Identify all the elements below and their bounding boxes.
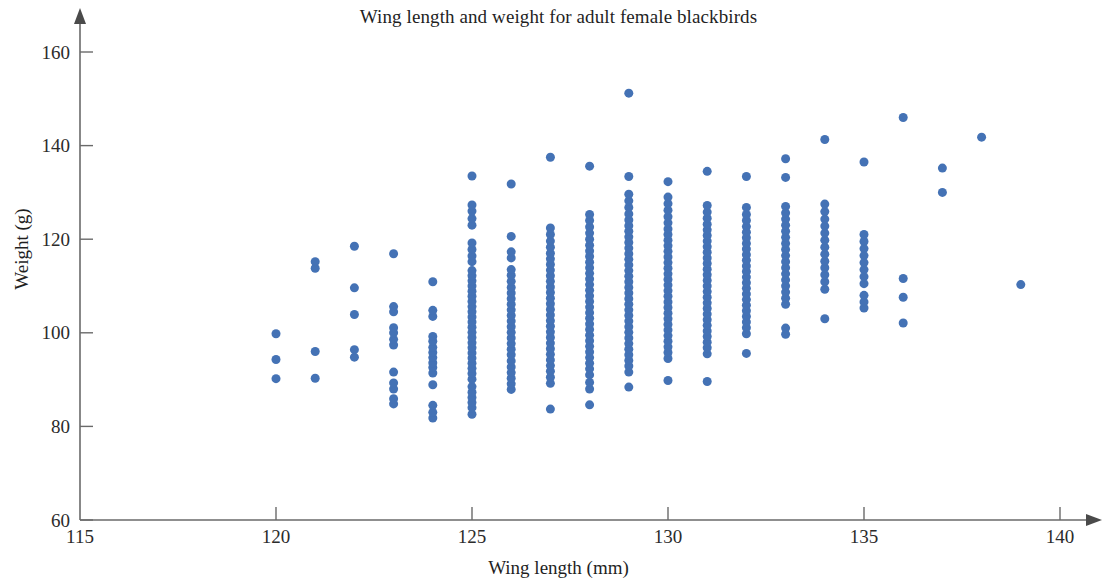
data-point	[272, 355, 281, 364]
data-point	[546, 223, 555, 232]
y-tick-label: 80	[51, 416, 70, 437]
data-point	[468, 172, 477, 181]
data-point	[624, 172, 633, 181]
y-tick-label: 160	[42, 42, 71, 63]
data-point	[389, 302, 398, 311]
data-point	[272, 329, 281, 338]
data-point	[350, 345, 359, 354]
data-points-layer	[272, 89, 1026, 423]
data-point	[428, 277, 437, 286]
data-point	[938, 188, 947, 197]
data-point	[624, 89, 633, 98]
data-point	[389, 394, 398, 403]
x-tick-label: 120	[262, 526, 291, 547]
data-point	[899, 113, 908, 122]
data-point	[389, 249, 398, 258]
y-axis-arrowhead	[74, 8, 86, 24]
data-point	[468, 266, 477, 275]
data-point	[350, 283, 359, 292]
data-point	[781, 202, 790, 211]
data-point	[428, 401, 437, 410]
data-point	[507, 247, 516, 256]
x-tick-label: 135	[850, 526, 879, 547]
data-point	[507, 232, 516, 241]
data-point	[585, 400, 594, 409]
data-point	[938, 164, 947, 173]
data-point	[1016, 280, 1025, 289]
data-point	[742, 203, 751, 212]
data-point	[781, 154, 790, 163]
data-point	[428, 306, 437, 315]
x-axis-arrowhead	[1086, 514, 1102, 526]
data-point	[899, 274, 908, 283]
data-point	[703, 201, 712, 210]
y-axis-title: Weight (g)	[11, 179, 33, 319]
data-point	[977, 133, 986, 142]
y-axis	[74, 8, 86, 520]
data-point	[624, 190, 633, 199]
data-point	[624, 383, 633, 392]
data-point	[311, 374, 320, 383]
data-point	[703, 167, 712, 176]
data-point	[389, 378, 398, 387]
data-point	[781, 324, 790, 333]
data-point	[664, 193, 673, 202]
data-point	[507, 179, 516, 188]
data-point	[272, 374, 281, 383]
data-point	[664, 177, 673, 186]
data-point	[585, 162, 594, 171]
y-tick-label: 100	[42, 322, 71, 343]
data-point	[468, 238, 477, 247]
data-point	[820, 200, 829, 209]
data-point	[428, 380, 437, 389]
x-axis-title: Wing length (mm)	[0, 557, 1117, 579]
x-tick-label: 115	[66, 526, 94, 547]
data-point	[507, 265, 516, 274]
x-tick-group: 115120125130135140	[66, 507, 1074, 547]
y-tick-label: 120	[42, 229, 71, 250]
data-point	[311, 257, 320, 266]
y-tick-group: 6080100120140160	[42, 42, 94, 531]
data-point	[781, 173, 790, 182]
data-point	[860, 230, 869, 239]
data-point	[428, 332, 437, 341]
data-point	[820, 135, 829, 144]
data-point	[742, 349, 751, 358]
data-point	[546, 153, 555, 162]
data-point	[350, 242, 359, 251]
x-axis	[80, 514, 1102, 526]
x-tick-label: 125	[458, 526, 487, 547]
data-point	[860, 157, 869, 166]
data-point	[899, 318, 908, 327]
data-point	[311, 347, 320, 356]
scatter-chart: Wing length and weight for adult female …	[0, 0, 1117, 582]
y-tick-label: 140	[42, 135, 71, 156]
data-point	[664, 376, 673, 385]
data-point	[546, 405, 555, 414]
data-point	[585, 210, 594, 219]
data-point	[389, 323, 398, 332]
plot-area: 6080100120140160 115120125130135140	[0, 0, 1117, 582]
data-point	[820, 314, 829, 323]
data-point	[389, 368, 398, 377]
data-point	[860, 291, 869, 300]
x-tick-label: 130	[654, 526, 683, 547]
data-point	[899, 293, 908, 302]
x-tick-label: 140	[1046, 526, 1075, 547]
data-point	[468, 201, 477, 210]
data-point	[350, 310, 359, 319]
data-point	[742, 172, 751, 181]
data-point	[703, 377, 712, 386]
